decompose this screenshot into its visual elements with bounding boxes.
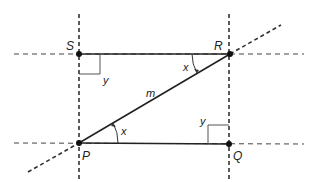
label-angle-x-R: x [182, 61, 189, 73]
label-line-m: m [146, 87, 155, 99]
transversal-extension-upper [230, 25, 281, 54]
label-angle-y-S: y [102, 74, 110, 86]
point-Q [226, 141, 232, 147]
segment-PQ [79, 143, 229, 144]
right-angle-S [79, 54, 100, 74]
label-Q: Q [233, 149, 242, 163]
point-R [227, 51, 233, 57]
solid-segments [79, 54, 230, 144]
label-R: R [214, 39, 223, 53]
construction-lines [14, 14, 304, 180]
label-angle-x-P: x [120, 125, 127, 137]
point-P [76, 140, 82, 146]
label-P: P [82, 149, 90, 163]
right-angle-Q [208, 125, 229, 144]
transversal-extension-lower [28, 143, 79, 172]
label-S: S [66, 39, 74, 53]
label-angle-y-Q: y [199, 115, 207, 127]
point-S [76, 51, 82, 57]
geometry-diagram: S R P Q m x x y y [0, 0, 314, 182]
